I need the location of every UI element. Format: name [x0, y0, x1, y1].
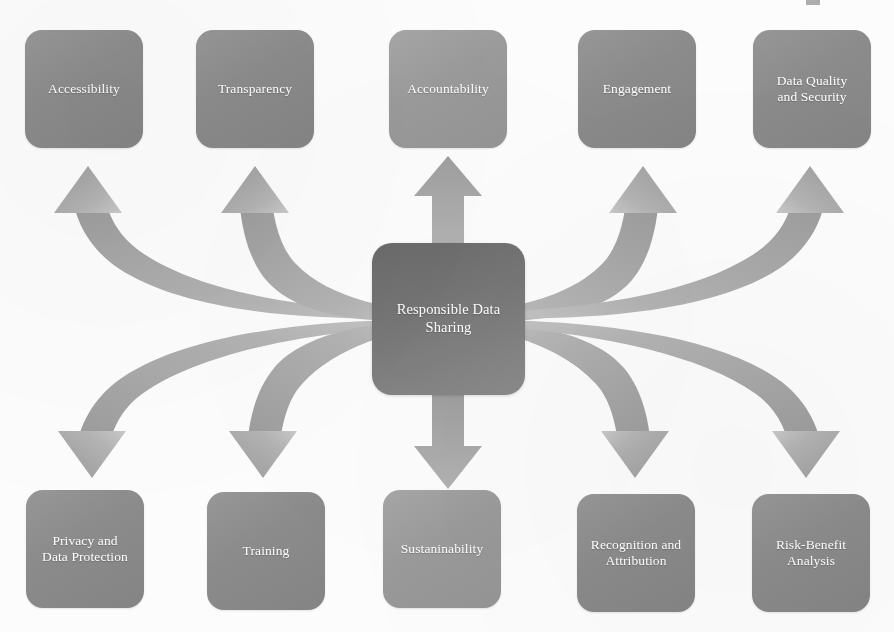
node-responsible-data-sharing[interactable]: Responsible Data Sharing: [372, 243, 525, 395]
node-transparency[interactable]: Transparency: [196, 30, 314, 148]
arrow-to-accountability: [414, 156, 482, 243]
center-label: Responsible Data Sharing: [397, 301, 500, 336]
node-label: Accessibility: [48, 81, 120, 97]
node-label: Transparency: [218, 81, 292, 97]
center-label-line1: Responsible Data: [397, 301, 500, 319]
diagram-canvas: Accessibility Transparency Accountabilit…: [0, 0, 894, 632]
center-label-line2: Sharing: [397, 319, 500, 337]
arrow-to-sustainability: [414, 394, 482, 489]
node-label: Data Quality and Security: [777, 73, 848, 106]
node-engagement[interactable]: Engagement: [578, 30, 696, 148]
node-label: Risk-Benefit Analysis: [776, 537, 846, 570]
node-label: Engagement: [603, 81, 671, 97]
node-label: Training: [243, 543, 290, 559]
node-label: Accountability: [407, 81, 489, 97]
scan-artifact-top: [806, 0, 820, 5]
node-data-quality-and-security[interactable]: Data Quality and Security: [753, 30, 871, 148]
node-label-line2: and Security: [777, 89, 848, 105]
node-label-line2: Analysis: [776, 553, 846, 569]
node-label-line1: Data Quality: [777, 73, 848, 89]
node-training[interactable]: Training: [207, 492, 325, 610]
node-recognition-and-attribution[interactable]: Recognition and Attribution: [577, 494, 695, 612]
node-label-line1: Recognition and: [591, 537, 681, 553]
node-label: Recognition and Attribution: [591, 537, 681, 570]
node-sustainability[interactable]: Sustaninability: [383, 490, 501, 608]
node-label: Sustaninability: [401, 541, 484, 557]
node-accountability[interactable]: Accountability: [389, 30, 507, 148]
node-label-line2: Data Protection: [42, 549, 128, 565]
node-label-line2: Attribution: [591, 553, 681, 569]
node-label: Privacy and Data Protection: [42, 533, 128, 566]
node-risk-benefit-analysis[interactable]: Risk-Benefit Analysis: [752, 494, 870, 612]
node-accessibility[interactable]: Accessibility: [25, 30, 143, 148]
node-label-line1: Privacy and: [42, 533, 128, 549]
node-label-line1: Risk-Benefit: [776, 537, 846, 553]
node-privacy-and-data-protection[interactable]: Privacy and Data Protection: [26, 490, 144, 608]
